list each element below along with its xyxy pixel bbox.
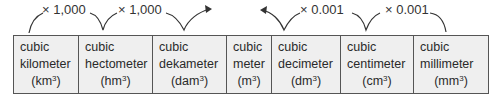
multiply-1000-label-2: × 1,000 bbox=[118, 2, 162, 17]
unit-cell-decimeter: cubic decimeter (dm3) bbox=[272, 36, 341, 93]
unit-line1: cubic bbox=[20, 40, 49, 54]
unit-name: meter bbox=[233, 57, 265, 71]
unit-cell-meter: cubic meter (m3) bbox=[227, 36, 272, 93]
unit-abbr: (dam3) bbox=[159, 73, 226, 90]
unit-cell-centimeter: cubic centimeter (cm3) bbox=[341, 36, 414, 93]
unit-abbr: (cm3) bbox=[347, 73, 413, 90]
unit-line1: cubic bbox=[85, 40, 114, 54]
multiply-0001-label-1: × 0.001 bbox=[300, 2, 344, 17]
unit-abbr: (km3) bbox=[20, 73, 78, 90]
unit-line1: cubic bbox=[420, 40, 449, 54]
unit-name: centimeter bbox=[347, 57, 405, 71]
unit-cell-hectometer: cubic hectometer (hm3) bbox=[79, 36, 153, 93]
unit-name: millimeter bbox=[420, 57, 473, 71]
unit-abbr: (hm3) bbox=[85, 73, 152, 90]
unit-cell-kilometer: cubic kilometer (km3) bbox=[14, 36, 79, 93]
multiply-1000-label-1: × 1,000 bbox=[42, 2, 86, 17]
multiply-0001-label-2: × 0.001 bbox=[385, 2, 429, 17]
unit-table: cubic kilometer (km3) cubic hectometer (… bbox=[13, 35, 489, 94]
unit-abbr: (mm3) bbox=[420, 73, 488, 90]
unit-abbr: (m3) bbox=[233, 73, 271, 90]
unit-name: dekameter bbox=[159, 57, 218, 71]
unit-name: decimeter bbox=[278, 57, 333, 71]
unit-line1: cubic bbox=[233, 40, 262, 54]
unit-cell-dekameter: cubic dekameter (dam3) bbox=[153, 36, 227, 93]
unit-name: kilometer bbox=[20, 57, 71, 71]
unit-line1: cubic bbox=[347, 40, 376, 54]
unit-cell-millimeter: cubic millimeter (mm3) bbox=[414, 36, 488, 93]
unit-name: hectometer bbox=[85, 57, 148, 71]
unit-line1: cubic bbox=[159, 40, 188, 54]
unit-line1: cubic bbox=[278, 40, 307, 54]
unit-abbr: (dm3) bbox=[278, 73, 340, 90]
